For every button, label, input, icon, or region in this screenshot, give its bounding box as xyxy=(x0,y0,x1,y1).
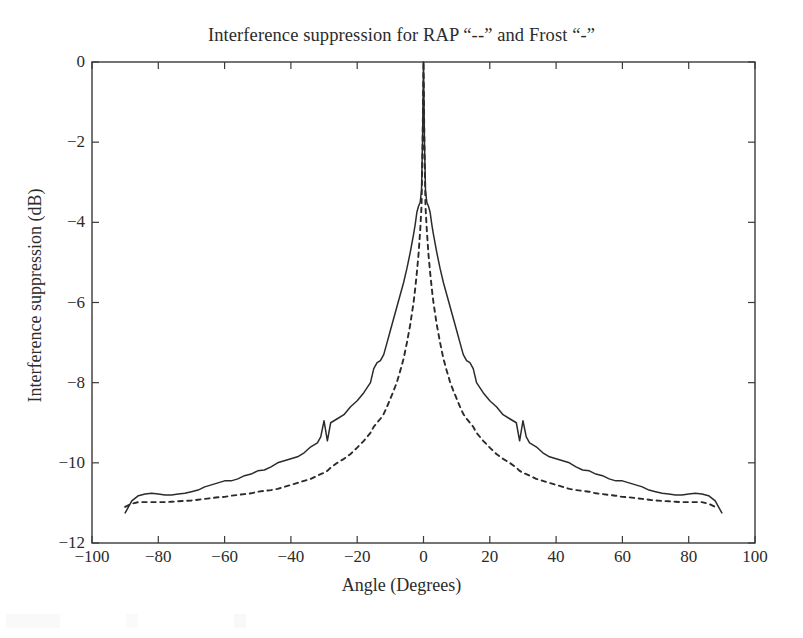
plot-canvas xyxy=(0,0,803,638)
data-series xyxy=(125,62,722,513)
series-line-rap xyxy=(125,62,715,507)
axes-frame xyxy=(92,62,755,543)
axis-ticks xyxy=(92,62,755,543)
chart-figure: Interference suppression for RAP “--” an… xyxy=(0,0,803,638)
scan-artifact xyxy=(6,614,306,628)
